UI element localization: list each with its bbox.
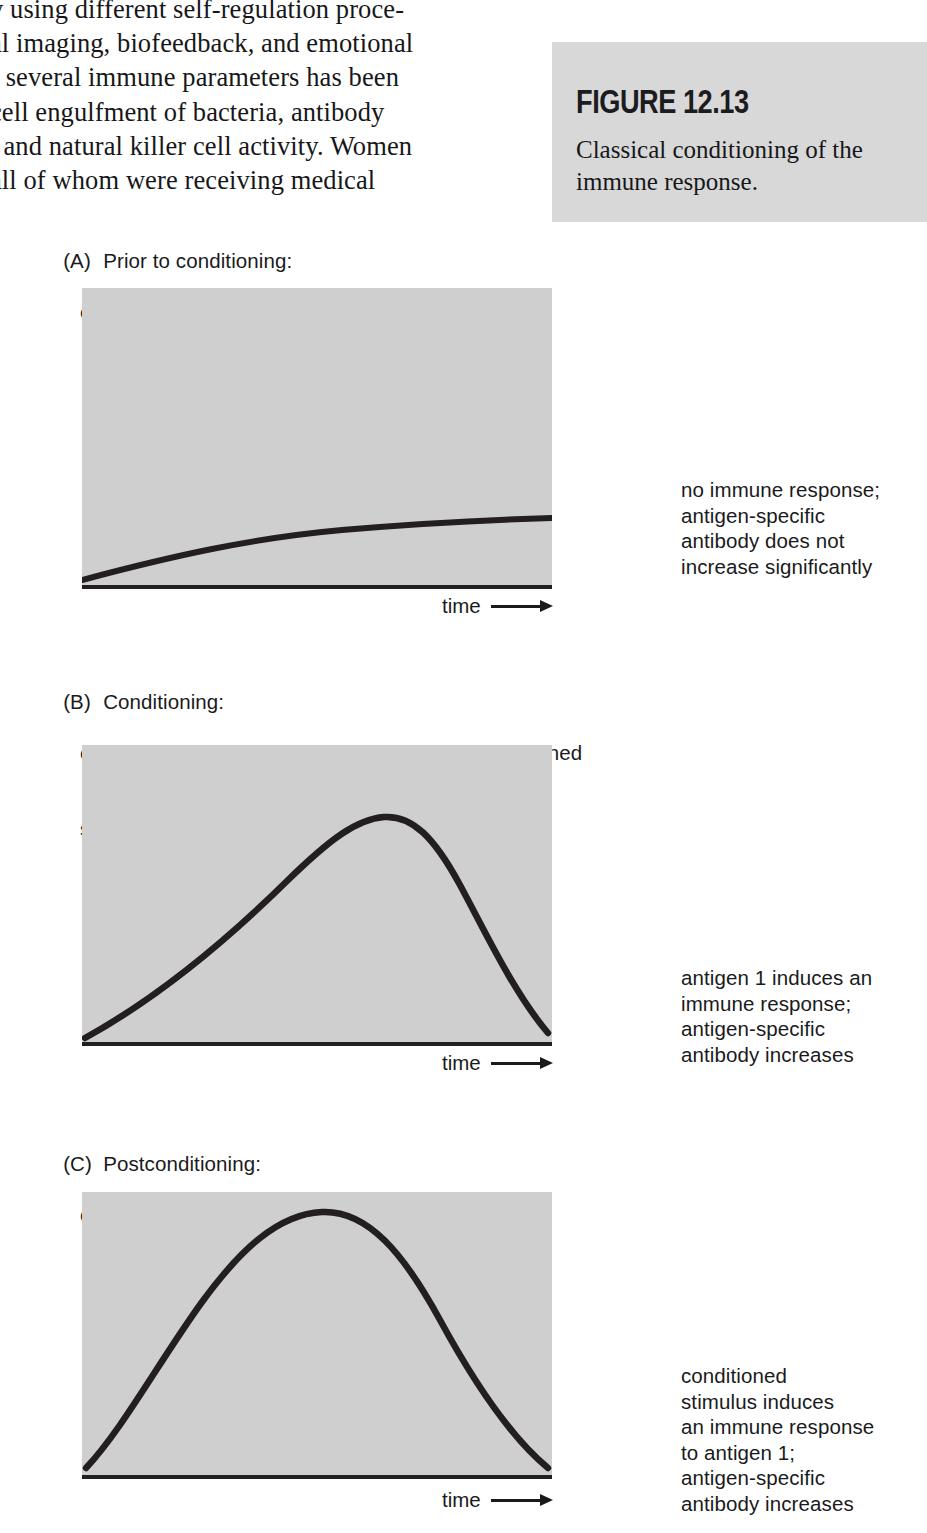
panel-c-curve bbox=[82, 1192, 552, 1475]
panel-b-curve bbox=[82, 745, 552, 1042]
panel-c-x-axis bbox=[82, 1475, 552, 1479]
body-text-line: al imaging, biofeedback, and emotional bbox=[0, 26, 550, 60]
panel-a-x-axis bbox=[82, 585, 552, 589]
panel-a-time-axis-label: time bbox=[442, 594, 553, 618]
time-label: time bbox=[442, 594, 481, 618]
figure-caption: Classical conditioning of the immune res… bbox=[576, 134, 926, 198]
arrow-right-icon bbox=[491, 600, 553, 612]
panel-b-y-axis-label: level of antibody specific for antigen 1 bbox=[0, 748, 26, 1048]
panel-b-plot-area bbox=[82, 745, 552, 1042]
panel-a-plot-area bbox=[82, 288, 552, 585]
panel-c-time-axis-label: time bbox=[442, 1488, 553, 1512]
panel-c-tag: (C) bbox=[63, 1151, 103, 1177]
panel-c-plot-area bbox=[82, 1192, 552, 1475]
body-text-column: y using different self-regulation proce-… bbox=[0, 0, 550, 197]
panel-b-title-line1: Conditioning: bbox=[103, 690, 224, 713]
panel-b-tag: (B) bbox=[63, 689, 103, 715]
time-label: time bbox=[442, 1051, 481, 1075]
panel-b-annotation: antigen 1 induces an immune response; an… bbox=[681, 965, 921, 1067]
figure-number: FIGURE 12.13 bbox=[576, 82, 749, 121]
arrow-right-icon bbox=[491, 1494, 553, 1506]
time-label: time bbox=[442, 1488, 481, 1512]
body-text-line: , and natural killer cell activity. Wome… bbox=[0, 129, 550, 163]
figure-caption-sidebar: FIGURE 12.13 Classical conditioning of t… bbox=[552, 42, 927, 222]
body-text-line: cell engulfment of bacteria, antibody bbox=[0, 95, 550, 129]
panel-c-y-axis-label: level of antibody specific for antigen 1 bbox=[0, 1196, 26, 1496]
body-text-line: y using different self-regulation proce- bbox=[0, 0, 550, 26]
body-text-line: all of whom were receiving medical bbox=[0, 163, 550, 197]
panel-a-tag: (A) bbox=[63, 248, 103, 274]
body-text-line: f several immune parameters has been bbox=[0, 60, 550, 94]
panel-a-curve bbox=[82, 288, 552, 585]
panel-b-time-axis-label: time bbox=[442, 1051, 553, 1075]
panel-a-annotation: no immune response; antigen-specific ant… bbox=[681, 477, 921, 579]
panel-c-title-line1: Postconditioning: bbox=[103, 1152, 261, 1175]
panel-a-title-line1: Prior to conditioning: bbox=[103, 249, 292, 272]
arrow-right-icon bbox=[491, 1057, 553, 1069]
panel-b-x-axis bbox=[82, 1042, 552, 1046]
panel-a-y-axis-label: level of antibody specific for antigen 1 bbox=[0, 292, 26, 592]
panel-c-annotation: conditioned stimulus induces an immune r… bbox=[681, 1363, 921, 1516]
